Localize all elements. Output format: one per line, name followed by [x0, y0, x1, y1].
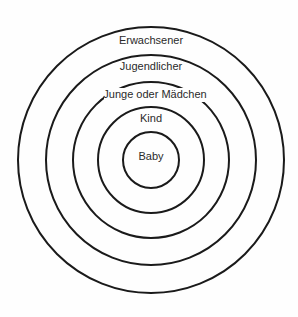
- diagram-canvas: Erwachsener Jugendlicher Junge oder Mädc…: [0, 0, 298, 317]
- label-erwachsener: Erwachsener: [119, 34, 184, 46]
- label-jugendlicher: Jugendlicher: [120, 60, 183, 72]
- concentric-life-stages-diagram: Erwachsener Jugendlicher Junge oder Mädc…: [0, 0, 298, 317]
- label-baby: Baby: [138, 150, 164, 162]
- label-junge-oder-maedchen: Junge oder Mädchen: [103, 88, 206, 100]
- label-kind: Kind: [140, 112, 162, 124]
